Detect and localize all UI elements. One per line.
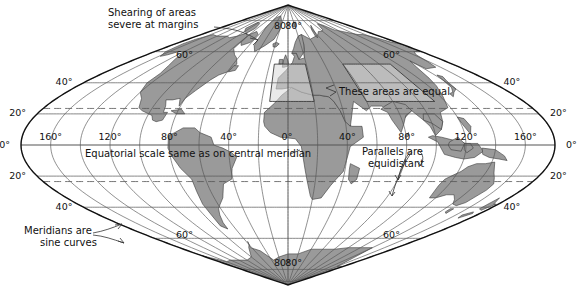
lon-label-w-80: 80° [161, 131, 178, 142]
annotation-shearing-line1: Shearing of areas [108, 7, 196, 18]
lat-label-right-20: 20° [550, 107, 567, 118]
lon-label-e-120: 120° [455, 131, 478, 142]
lat-label-left-60: 60° [176, 49, 193, 60]
lat-label-right-40: 40° [504, 76, 521, 87]
lat-label-right-60: 60° [383, 49, 400, 60]
annotation-parallels-equidistant-line1: Parallels are [362, 146, 423, 157]
graticule-lines [21, 5, 555, 285]
lat-label-right-80: 80° [274, 20, 291, 31]
lon-label-e-40: 40° [339, 131, 356, 142]
landmass-ireland [279, 59, 283, 64]
annotation-equatorial-scale-line1: Equatorial scale same as on central meri… [85, 148, 311, 159]
annotation-meridians-sine-line1: Meridians are [24, 225, 92, 236]
lat-label-right-40s: 40° [504, 201, 521, 212]
lat-label-right-0: 0° [566, 139, 577, 150]
lat-label-left-20: 20° [9, 107, 26, 118]
lat-label-left-40s: 40° [56, 201, 73, 212]
lat-label-right-60s: 60° [383, 229, 400, 240]
lon-label-w-120: 120° [99, 131, 122, 142]
lon-label-w-40: 40° [220, 131, 237, 142]
annotation-equal-areas-line1: These areas are equal [338, 86, 450, 97]
lon-label-w-160: 160° [39, 131, 62, 142]
lat-label-left-60s: 60° [176, 229, 193, 240]
figure-canvas: 40°20°0°20°40°40°20°0°20°40°60°80°60°80°… [0, 0, 580, 291]
lon-label-0: 0° [282, 131, 293, 142]
lon-label-e-80: 80° [398, 131, 415, 142]
lat-label-right-20s: 20° [550, 170, 567, 181]
lat-label-left-20s: 20° [9, 170, 26, 181]
leader-line-meridians-sine [93, 224, 124, 243]
annotation-parallels-equidistant-line2: equidistant [368, 158, 424, 169]
lat-label-left-40: 40° [56, 76, 73, 87]
sinusoidal-projection-map: 40°20°0°20°40°40°20°0°20°40°60°80°60°80°… [0, 0, 580, 291]
lon-label-e-160: 160° [514, 131, 537, 142]
lat-label-right-80s: 80° [274, 257, 291, 268]
annotation-meridians-sine-line2: sine curves [40, 237, 97, 248]
lat-label-left-0: 0° [0, 139, 10, 150]
annotation-shearing-line2: severe at margins [108, 19, 198, 30]
